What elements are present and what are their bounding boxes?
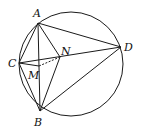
segment-AC <box>19 23 38 63</box>
label-M: M <box>27 69 40 82</box>
segment-CM <box>19 63 39 66</box>
label-C: C <box>8 57 17 70</box>
label-B: B <box>33 116 42 129</box>
circumcircle <box>19 12 123 116</box>
segment-AD <box>38 23 121 47</box>
segment-AB <box>38 23 40 111</box>
label-N: N <box>60 45 71 58</box>
geometry-diagram: A B C D M N <box>0 0 143 140</box>
label-D: D <box>123 41 133 54</box>
label-A: A <box>32 7 41 20</box>
